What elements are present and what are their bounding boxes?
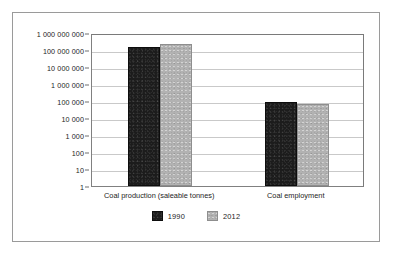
y-axis-tick-label: 1 000 000 000 xyxy=(37,30,84,39)
y-axis-tick-label: 10 000 xyxy=(61,115,84,124)
y-axis-tick-mark xyxy=(85,153,89,154)
legend-label: 2012 xyxy=(223,212,240,221)
y-axis-tick-label: 1 000 000 xyxy=(51,81,84,90)
legend-label: 1990 xyxy=(168,212,185,221)
plot-area xyxy=(91,34,364,187)
x-axis-category-label: Coal production (saleable tonnes) xyxy=(104,191,215,200)
y-axis-tick-mark xyxy=(85,51,89,52)
y-axis-tick-mark xyxy=(85,85,89,86)
y-axis-tick-mark xyxy=(85,170,89,171)
y-axis-tick-label: 100 xyxy=(72,149,84,158)
legend-entry-2012[interactable]: 2012 xyxy=(207,211,240,221)
bar-2012-coal-employment xyxy=(297,104,329,186)
y-axis-tick-mark xyxy=(85,102,89,103)
y-axis-tick-label: 1 xyxy=(80,183,84,192)
chart-figure-frame: 1 000 000 000100 000 00010 000 0001 000 … xyxy=(12,12,380,242)
bar-1990-coal-employment xyxy=(265,102,297,186)
y-axis-tick-mark xyxy=(85,187,89,188)
chart-legend: 19902012 xyxy=(13,211,379,221)
y-axis-tick-mark xyxy=(85,34,89,35)
bar-1990-coal-production xyxy=(128,47,160,186)
y-axis-tick-mark xyxy=(85,68,89,69)
bar-2012-coal-production xyxy=(160,44,192,186)
y-axis-tick-label: 100 000 000 xyxy=(43,47,84,56)
y-axis-tick-label: 10 xyxy=(76,166,84,175)
y-axis: 1 000 000 000100 000 00010 000 0001 000 … xyxy=(13,34,89,187)
y-axis-tick-label: 1 000 xyxy=(66,132,85,141)
legend-swatch-icon xyxy=(207,211,218,221)
x-axis: Coal production (saleable tonnes)Coal em… xyxy=(91,191,364,207)
y-axis-tick-mark xyxy=(85,119,89,120)
y-axis-tick-label: 10 000 000 xyxy=(47,64,84,73)
legend-swatch-icon xyxy=(152,211,163,221)
x-axis-category-label: Coal employment xyxy=(267,191,325,200)
legend-entry-1990[interactable]: 1990 xyxy=(152,211,185,221)
y-axis-tick-mark xyxy=(85,136,89,137)
y-axis-tick-label: 100 000 xyxy=(57,98,84,107)
